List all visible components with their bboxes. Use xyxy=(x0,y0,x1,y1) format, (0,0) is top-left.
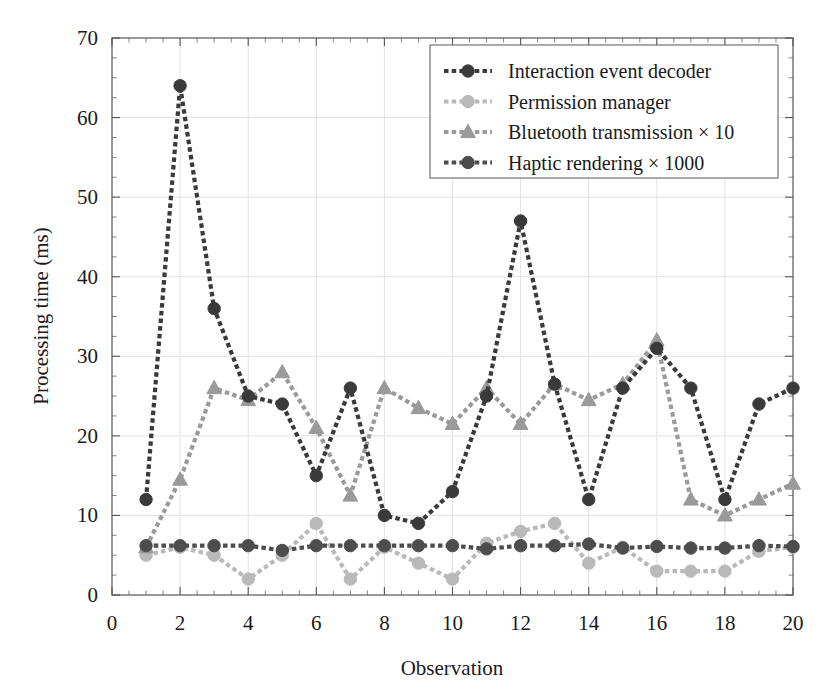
data-point-marker-circle xyxy=(514,215,526,227)
data-point-marker-circle xyxy=(446,539,458,551)
data-point-marker-circle xyxy=(446,573,458,585)
data-point-marker-circle xyxy=(174,80,186,92)
legend-label: Interaction event decoder xyxy=(508,60,712,82)
data-point-marker-circle xyxy=(787,540,799,552)
x-tick-label: 20 xyxy=(783,611,804,635)
data-point-marker-circle xyxy=(480,543,492,555)
data-point-marker-circle xyxy=(462,95,474,107)
y-tick-label: 60 xyxy=(77,106,98,130)
data-point-marker-circle xyxy=(548,539,560,551)
x-tick-label: 0 xyxy=(107,611,118,635)
data-point-marker-circle xyxy=(242,573,254,585)
data-point-marker-circle xyxy=(344,539,356,551)
data-point-marker-circle xyxy=(208,302,220,314)
data-point-marker-circle xyxy=(583,557,595,569)
data-point-marker-circle xyxy=(583,538,595,550)
data-point-marker-circle xyxy=(583,493,595,505)
data-point-marker-circle xyxy=(462,156,474,168)
x-tick-label: 6 xyxy=(311,611,322,635)
y-tick-label: 40 xyxy=(77,265,98,289)
data-point-marker-circle xyxy=(617,382,629,394)
data-point-marker-circle xyxy=(174,539,186,551)
data-point-marker-circle xyxy=(685,565,697,577)
data-point-marker-circle xyxy=(617,542,629,554)
data-point-marker-circle xyxy=(514,525,526,537)
data-point-marker-circle xyxy=(719,493,731,505)
data-point-marker-circle xyxy=(480,390,492,402)
data-point-marker-circle xyxy=(719,542,731,554)
data-point-marker-circle xyxy=(412,539,424,551)
data-point-marker-circle xyxy=(548,517,560,529)
data-point-marker-circle xyxy=(548,378,560,390)
data-point-marker-circle xyxy=(719,565,731,577)
data-point-marker-circle xyxy=(276,398,288,410)
x-tick-label: 14 xyxy=(578,611,600,635)
x-tick-label: 10 xyxy=(442,611,463,635)
data-point-marker-circle xyxy=(276,544,288,556)
data-point-marker-circle xyxy=(446,485,458,497)
data-point-marker-circle xyxy=(651,565,663,577)
y-tick-label: 30 xyxy=(77,344,98,368)
data-point-marker-circle xyxy=(753,398,765,410)
data-point-marker-circle xyxy=(753,539,765,551)
chart-legend: Interaction event decoderPermission mana… xyxy=(430,45,778,178)
x-tick-label: 16 xyxy=(646,611,667,635)
data-point-marker-circle xyxy=(651,540,663,552)
y-tick-label: 0 xyxy=(88,583,99,607)
data-point-marker-circle xyxy=(310,469,322,481)
y-tick-label: 50 xyxy=(77,185,98,209)
legend-label: Bluetooth transmission × 10 xyxy=(508,121,734,143)
data-point-marker-circle xyxy=(412,557,424,569)
data-point-marker-circle xyxy=(344,382,356,394)
data-point-marker-circle xyxy=(685,382,697,394)
y-tick-label: 10 xyxy=(77,503,98,527)
x-axis-title: Observation xyxy=(401,656,504,680)
data-point-marker-circle xyxy=(140,539,152,551)
legend-label: Haptic rendering × 1000 xyxy=(508,152,704,175)
y-tick-label: 20 xyxy=(77,424,98,448)
data-point-marker-circle xyxy=(462,65,474,77)
data-point-marker-circle xyxy=(242,390,254,402)
data-point-marker-circle xyxy=(378,539,390,551)
x-tick-label: 2 xyxy=(175,611,186,635)
data-point-marker-circle xyxy=(208,539,220,551)
data-point-marker-circle xyxy=(310,517,322,529)
data-point-marker-circle xyxy=(685,542,697,554)
legend-label: Permission manager xyxy=(508,91,671,114)
y-tick-label: 70 xyxy=(77,26,98,50)
x-tick-label: 12 xyxy=(510,611,531,635)
data-point-marker-circle xyxy=(140,493,152,505)
data-point-marker-circle xyxy=(787,382,799,394)
data-point-marker-circle xyxy=(310,539,322,551)
processing-time-line-chart: 010203040506070 02468101214161820 Proces… xyxy=(0,0,836,695)
data-point-marker-circle xyxy=(344,573,356,585)
x-tick-label: 4 xyxy=(243,611,254,635)
data-point-marker-circle xyxy=(514,539,526,551)
x-tick-label: 8 xyxy=(379,611,390,635)
data-point-marker-circle xyxy=(651,342,663,354)
y-axis-title: Processing time (ms) xyxy=(29,227,53,404)
chart-container: 010203040506070 02468101214161820 Proces… xyxy=(0,0,836,695)
x-tick-label: 18 xyxy=(714,611,735,635)
data-point-marker-circle xyxy=(242,539,254,551)
data-point-marker-circle xyxy=(378,509,390,521)
data-point-marker-circle xyxy=(412,517,424,529)
